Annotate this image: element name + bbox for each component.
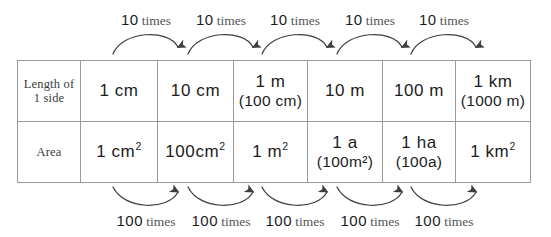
top-arrow-label-3: 10 times	[257, 11, 333, 29]
top-arrow-1	[113, 35, 178, 54]
cell-length-1m: 1 m (100 cm)	[234, 61, 308, 122]
bottom-arrow-5	[411, 187, 476, 205]
top-arrow-label-1: 10 times	[108, 11, 184, 29]
cell-area-1km2-base: 1 km	[470, 142, 509, 161]
cell-area-1m2-base: 1 m	[252, 142, 282, 161]
cell-length-1cm-main: 1 cm	[81, 81, 157, 100]
cell-area-1cm2: 1 cm2	[81, 122, 158, 183]
cell-length-1m-main: 1 m	[234, 72, 307, 91]
cell-length-100m-main: 100 m	[383, 81, 455, 100]
cell-area-100cm2-base: 100cm	[165, 142, 219, 161]
cell-length-1m-sub: (100 cm)	[234, 92, 307, 109]
top-arrow-4-word: times	[366, 13, 395, 28]
cell-area-1cm2-base: 1 cm	[96, 142, 135, 161]
cell-area-1km2-exponent: 2	[509, 141, 515, 153]
cell-area-100cm2-main: 100cm2	[158, 142, 233, 161]
bottom-arrow-4-word: times	[370, 214, 399, 229]
bottom-arrow-1-word: times	[146, 214, 175, 229]
top-arrow-label-2: 10 times	[183, 11, 259, 29]
cell-area-1m2-exponent: 2	[282, 141, 288, 153]
top-arrow-1-multiplier: 10	[121, 11, 139, 28]
cell-area-1km2: 1 km2	[456, 122, 531, 183]
table-row-area: Area 1 cm2 100cm2 1 m2 1 a (100m²) 1 ha	[18, 122, 531, 183]
cell-length-1km-sub: (1000 m)	[456, 92, 530, 109]
diagram-canvas: 10 times 10 times 10 times 10 times 10 t…	[0, 0, 551, 237]
bottom-arrow-5-multiplier: 100	[414, 212, 441, 229]
bottom-arrow-1	[113, 187, 178, 205]
cell-area-1ha-main: 1 ha	[383, 133, 455, 152]
bottom-arrow-label-4: 100 times	[329, 212, 411, 230]
top-arrow-5	[411, 35, 476, 54]
row-header-length-line-2: 1 side	[18, 91, 80, 105]
cell-area-1m2-main: 1 m2	[234, 142, 307, 161]
bottom-arrow-5-word: times	[444, 214, 473, 229]
top-arrow-2-word: times	[217, 13, 246, 28]
row-header-length-of-one-side: Length of 1 side	[18, 61, 81, 122]
bottom-arrow-1-multiplier: 100	[116, 212, 143, 229]
top-arrow-2-multiplier: 10	[196, 11, 214, 28]
cell-length-100m: 100 m	[383, 61, 456, 122]
unit-conversion-table: Length of 1 side 1 cm 10 cm 1 m (100 cm)…	[17, 60, 531, 183]
top-arrow-5-word: times	[440, 13, 469, 28]
cell-length-1km-main: 1 km	[456, 72, 530, 91]
bottom-arrow-label-1: 100 times	[105, 212, 187, 230]
cell-length-10m-main: 10 m	[308, 81, 382, 100]
cell-area-1cm2-exponent: 2	[135, 141, 141, 153]
bottom-arrow-3-multiplier: 100	[265, 212, 292, 229]
bottom-arrow-4	[337, 187, 402, 205]
cell-area-100cm2-exponent: 2	[219, 141, 225, 153]
top-arrow-3	[262, 35, 327, 54]
bottom-arrow-3	[262, 187, 327, 205]
cell-length-10cm: 10 cm	[158, 61, 234, 122]
cell-area-1ha-sub: (100a)	[383, 153, 455, 170]
top-arrow-4	[337, 35, 402, 54]
cell-area-1m2: 1 m2	[234, 122, 308, 183]
bottom-arrow-label-2: 100 times	[180, 212, 262, 230]
cell-area-1a: 1 a (100m²)	[308, 122, 383, 183]
bottom-arrow-label-5: 100 times	[403, 212, 485, 230]
top-arrow-5-multiplier: 10	[419, 11, 437, 28]
top-arrow-1-word: times	[142, 13, 171, 28]
cell-length-10m: 10 m	[308, 61, 383, 122]
cell-length-1km: 1 km (1000 m)	[456, 61, 531, 122]
top-arrow-2	[188, 35, 253, 54]
bottom-arrow-2	[188, 187, 253, 205]
bottom-arrow-2-multiplier: 100	[191, 212, 218, 229]
cell-area-1ha: 1 ha (100a)	[383, 122, 456, 183]
top-arrow-label-5: 10 times	[406, 11, 482, 29]
top-arrow-3-word: times	[291, 13, 320, 28]
cell-area-1a-sub: (100m²)	[308, 153, 382, 170]
row-header-area-line-1: Area	[18, 145, 80, 159]
cell-area-100cm2: 100cm2	[158, 122, 234, 183]
row-header-area: Area	[18, 122, 81, 183]
table-row-length: Length of 1 side 1 cm 10 cm 1 m (100 cm)…	[18, 61, 531, 122]
row-header-length-line-1: Length of	[18, 77, 80, 91]
cell-area-1a-main: 1 a	[308, 133, 382, 152]
bottom-arrow-label-3: 100 times	[254, 212, 336, 230]
top-arrow-label-4: 10 times	[332, 11, 408, 29]
top-arrow-3-multiplier: 10	[270, 11, 288, 28]
bottom-arrow-4-multiplier: 100	[340, 212, 367, 229]
cell-area-1cm2-main: 1 cm2	[81, 142, 157, 161]
cell-area-1km2-main: 1 km2	[456, 142, 530, 161]
cell-length-1cm: 1 cm	[81, 61, 158, 122]
cell-length-10cm-main: 10 cm	[158, 81, 233, 100]
top-arrow-4-multiplier: 10	[345, 11, 363, 28]
bottom-arrow-2-word: times	[221, 214, 250, 229]
bottom-arrow-3-word: times	[295, 214, 324, 229]
